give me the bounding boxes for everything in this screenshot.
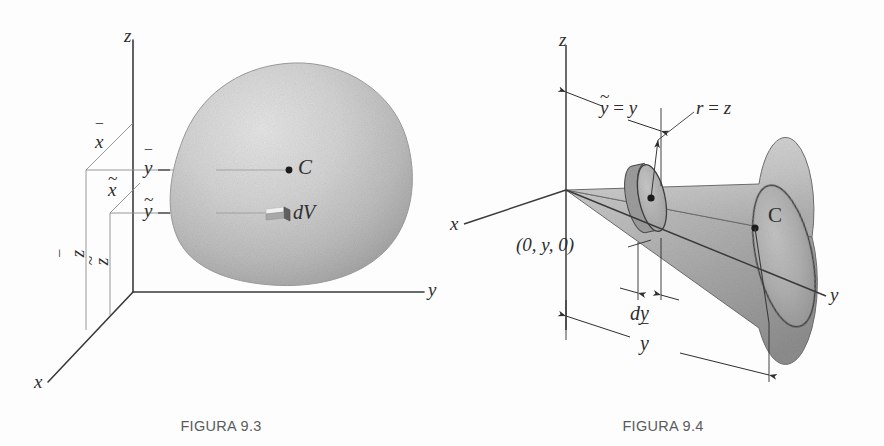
centroid-label: C [298, 157, 312, 178]
point-coordinates-label: (0, y, 0) [516, 235, 574, 254]
volume-element-dv [266, 207, 290, 221]
volume-element-label: dV [293, 202, 315, 222]
axis-label-y: y [428, 280, 436, 299]
disk-center-dot [647, 194, 654, 201]
y-bar-label: ‾y [144, 158, 152, 177]
axis-label-z: z [124, 26, 131, 45]
figure-9-3-drawing [0, 0, 442, 400]
z-tilde-label: ~z [92, 258, 111, 265]
x-bar-projection-line [86, 123, 133, 170]
figure-9-3-panel: z y x ‾x ‾y ~x ~y ‾z ~z C dV FIGURA 9.3 [0, 0, 442, 446]
axis-label-x: x [450, 214, 458, 233]
x-axis-line [464, 190, 566, 224]
centroid-dot [286, 167, 293, 174]
radius-label: r = z [696, 98, 731, 117]
x-bar-label: ‾x [95, 132, 103, 151]
x-tilde-label: ~x [108, 180, 116, 199]
figure-9-4-drawing [442, 0, 884, 400]
figure-page: z y x ‾x ‾y ~x ~y ‾z ~z C dV FIGURA 9.3 [0, 0, 884, 446]
axis-label-y: y [830, 285, 838, 304]
radius-callout-line [658, 112, 694, 140]
irregular-solid [170, 63, 412, 286]
dy-label: dy [630, 303, 649, 323]
axis-label-z: z [559, 30, 566, 49]
axis-label-x: x [34, 372, 42, 391]
figure-9-4-caption: FIGURA 9.4 [442, 418, 884, 434]
y-tilde-equals-y-label: ~y = y [600, 98, 637, 117]
figure-9-4-panel: z y x ~y = y r = z (0, y, 0) dy ‾y C FIG… [442, 0, 884, 446]
centroid-label: C [768, 205, 782, 226]
x-axis-line [48, 292, 133, 382]
y-bar-label: ‾y [640, 333, 649, 353]
y-tilde-label: ~y [144, 201, 152, 220]
figure-9-3-caption: FIGURA 9.3 [0, 418, 442, 434]
